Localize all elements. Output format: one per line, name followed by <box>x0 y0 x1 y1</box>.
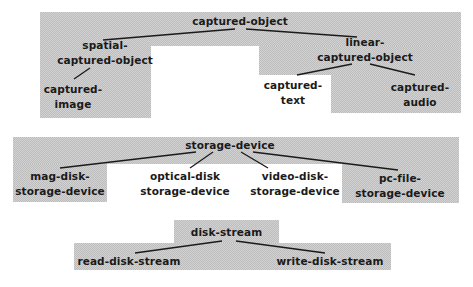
edge-line <box>135 241 222 253</box>
edge-line <box>60 152 196 168</box>
edge-line <box>253 152 398 170</box>
edge-line <box>103 29 235 40</box>
edge-line <box>241 152 268 168</box>
tree-edges <box>0 0 473 287</box>
edge-line <box>370 64 415 75</box>
edge-line <box>74 68 90 79</box>
edge-line <box>246 29 357 37</box>
edge-line <box>236 241 325 253</box>
edge-line <box>190 152 213 168</box>
edge-line <box>297 64 352 75</box>
